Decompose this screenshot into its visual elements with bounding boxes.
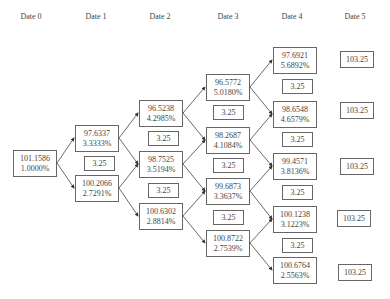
node-d3-3: 100.8722 2.7539% [206,230,250,257]
node-price: 100.1238 [274,210,316,220]
node-d0-0: 101.1586 1.0000% [13,150,57,177]
node-price: 99.6873 [207,182,249,192]
node-d2-1: 98.7525 3.5194% [139,151,183,178]
node-d5-3: 103.25 [337,210,371,227]
node-d3-2: 99.6873 3.3637% [206,178,250,205]
node-rate: 3.5194% [140,165,182,175]
node-rate: 5.6892% [274,61,316,71]
node-d3-0: 96.5772 5.0180% [206,74,250,101]
coupon-d2-1: 3.25 [148,183,179,198]
node-rate: 3.3637% [207,192,249,202]
node-rate: 2.5563% [274,271,316,281]
node-rate: 4.1084% [207,141,249,151]
node-d4-4: 100.6764 2.5563% [273,257,317,284]
node-price: 100.2066 [76,179,118,189]
node-d4-0: 97.6921 5.6892% [273,47,317,74]
coupon-d3-1: 3.25 [213,158,244,173]
node-rate: 4.2985% [140,114,182,124]
node-d2-2: 100.6302 2.8814% [139,203,183,230]
node-rate: 3.8136% [274,167,316,177]
node-d1-1: 100.2066 2.7291% [75,175,119,202]
node-rate: 2.8814% [140,217,182,227]
node-rate: 3.3333% [76,139,118,149]
node-price: 100.6764 [274,261,316,271]
node-d5-4: 103.25 [338,264,372,281]
coupon-d3-2: 3.25 [213,210,244,225]
node-d5-0: 103.25 [340,51,374,68]
tree-edges [0,0,390,299]
node-rate: 4.6579% [274,115,316,125]
node-rate: 1.0000% [14,164,56,174]
node-price: 96.5772 [207,78,249,88]
node-price: 101.1586 [14,154,56,164]
node-d4-3: 100.1238 3.1223% [273,206,317,233]
coupon-d3-0: 3.25 [213,105,244,120]
node-price: 100.6302 [140,207,182,217]
node-price: 97.6921 [274,51,316,61]
node-d5-1: 103.25 [340,102,374,119]
coupon-d1-0: 3.25 [84,156,115,171]
coupon-d4-3: 3.25 [282,238,313,253]
node-d2-0: 96.5238 4.2985% [139,100,183,127]
node-price: 98.2687 [207,131,249,141]
node-rate: 2.7291% [76,189,118,199]
node-d4-2: 99.4571 3.8136% [273,153,317,180]
coupon-d4-0: 3.25 [282,79,313,94]
node-price: 99.4571 [274,157,316,167]
node-d4-1: 98.6548 4.6579% [273,101,317,128]
node-price: 98.7525 [140,155,182,165]
node-price: 97.6337 [76,129,118,139]
node-price: 98.6548 [274,105,316,115]
node-price: 100.8722 [207,234,249,244]
node-d3-1: 98.2687 4.1084% [206,127,250,154]
node-d1-0: 97.6337 3.3333% [75,125,119,152]
coupon-d4-1: 3.25 [282,132,313,147]
node-price: 96.5238 [140,104,182,114]
node-rate: 5.0180% [207,88,249,98]
node-rate: 3.1223% [274,220,316,230]
node-d5-2: 103.25 [340,158,374,175]
coupon-d2-0: 3.25 [148,131,179,146]
coupon-d4-2: 3.25 [282,185,313,200]
node-rate: 2.7539% [207,244,249,254]
